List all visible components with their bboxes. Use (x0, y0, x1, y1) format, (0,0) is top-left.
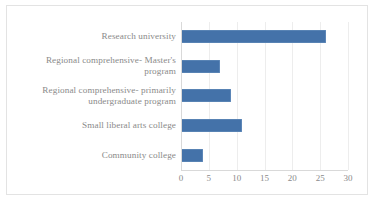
bar-row (181, 81, 348, 111)
gridline (348, 22, 349, 170)
category-label-row: Research university (14, 22, 180, 52)
tick-label: 20 (288, 172, 297, 184)
bar (181, 149, 203, 162)
plot-area (181, 22, 348, 170)
tick-label: 5 (207, 172, 212, 184)
category-label: Research university (102, 31, 176, 42)
category-label: Community college (102, 150, 176, 161)
category-axis-labels: Research university Regional comprehensi… (14, 22, 180, 170)
bar-row (181, 22, 348, 52)
category-label-row: Regional comprehensive- primarily underg… (14, 81, 180, 111)
bar (181, 30, 326, 43)
bar-row (181, 111, 348, 141)
category-label-row: Small liberal arts college (14, 111, 180, 141)
bar (181, 89, 231, 102)
tick-label: 10 (232, 172, 241, 184)
tick-label: 30 (344, 172, 353, 184)
category-label-row: Community college (14, 140, 180, 170)
category-label: Regional comprehensive- primarily underg… (14, 85, 176, 107)
tick-label: 15 (260, 172, 269, 184)
bar-chart: Research university Regional comprehensi… (0, 0, 376, 203)
value-axis-tick-labels: 051015202530 (181, 172, 348, 186)
category-axis-line (181, 170, 348, 171)
category-label: Regional comprehensive- Master's program (14, 55, 176, 77)
category-label-row: Regional comprehensive- Master's program (14, 52, 180, 82)
bar-row (181, 52, 348, 82)
bar (181, 119, 242, 132)
bar-series (181, 22, 348, 170)
bar (181, 60, 220, 73)
tick-label: 0 (179, 172, 184, 184)
tick-label: 25 (316, 172, 325, 184)
plot-wrapper: Research university Regional comprehensi… (0, 0, 376, 203)
category-label: Small liberal arts college (82, 120, 176, 131)
bar-row (181, 140, 348, 170)
value-axis-line (181, 22, 182, 170)
